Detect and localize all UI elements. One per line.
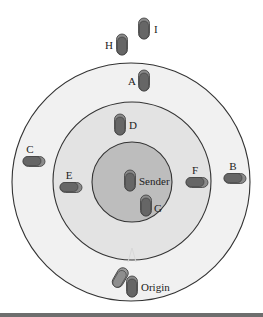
vehicle-label: E [66,169,73,181]
vehicle-label: D [129,119,137,131]
vehicle-h-icon: H [105,34,128,55]
vehicle-label: G [154,202,162,214]
vehicle-label: A [128,75,136,87]
bottom-rule [0,313,263,317]
vehicle-label: F [192,164,198,176]
vehicle-label: H [105,39,113,51]
vehicle-label: Origin [141,281,170,293]
diagram-canvas: IHADCESenderFBGOrigin [0,0,263,317]
vehicle-i-icon: I [139,18,159,39]
vehicle-label: B [229,160,236,172]
vehicle-label: I [154,23,158,35]
vehicle-label: Sender [139,175,170,187]
zones-diagram: IHADCESenderFBGOrigin [0,0,263,317]
vehicle-label: C [26,143,33,155]
